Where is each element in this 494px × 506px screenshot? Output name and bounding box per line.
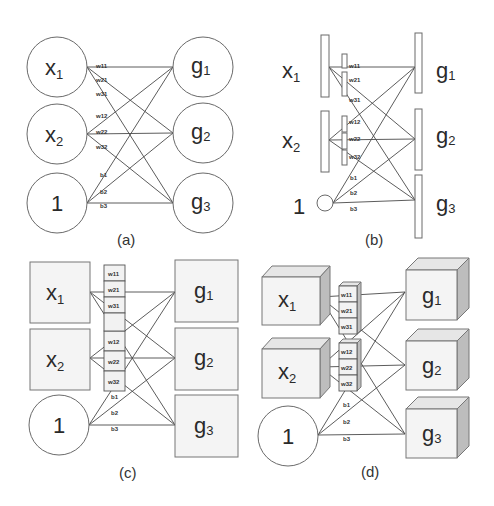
bias-label: b3 bbox=[100, 203, 108, 209]
input-cube-x1 bbox=[262, 266, 330, 325]
panel-a-edges bbox=[87, 67, 173, 203]
bias-label: b3 bbox=[343, 436, 351, 442]
weight-label: w31 bbox=[107, 303, 120, 309]
panel-caption-d: (d) bbox=[361, 463, 379, 480]
panel-d-weight-column: w11 w21 w31 w12 w22 w32 b1 b2 b3 bbox=[339, 282, 361, 442]
panel-caption-a: (a) bbox=[117, 231, 135, 248]
panel-c-edges bbox=[89, 292, 175, 425]
weight-label: w32 bbox=[348, 154, 361, 160]
bias-label-one: 1 bbox=[51, 191, 63, 216]
input-label-x2: x2 bbox=[282, 128, 300, 155]
output-bar-g3 bbox=[415, 175, 422, 238]
weight-label: w31 bbox=[340, 324, 353, 330]
weight-label: w21 bbox=[107, 287, 120, 293]
weight-label: w32 bbox=[340, 381, 353, 387]
panel-caption-c: (c) bbox=[119, 464, 137, 481]
panel-d: w11 w21 w31 w12 w22 w32 b1 b2 b3 x1 x2 1 bbox=[258, 258, 469, 480]
weight-label: w31 bbox=[95, 91, 108, 97]
bias-label: b2 bbox=[343, 419, 351, 425]
output-label-g2: g2 bbox=[436, 123, 455, 148]
output-label-g1: g1 bbox=[436, 58, 455, 83]
input-label-x1: x1 bbox=[282, 58, 300, 85]
weight-label: w21 bbox=[95, 77, 108, 83]
weight-bar bbox=[342, 133, 347, 149]
weight-label: w11 bbox=[348, 63, 361, 69]
bias-label: b3 bbox=[111, 426, 119, 432]
weight-bar bbox=[342, 54, 347, 68]
weight-label: w22 bbox=[107, 359, 120, 365]
output-bar-g1 bbox=[415, 33, 422, 93]
output-cube-g1 bbox=[406, 258, 469, 320]
bias-label: b2 bbox=[100, 189, 108, 195]
weight-label: w21 bbox=[340, 308, 353, 314]
panel-b: w11 w21 w31 w12 w22 w32 b1 b2 b3 x1 x2 1… bbox=[282, 33, 455, 248]
panel-c: w11 w21 w31 w12 w22 w32 b1 b2 b3 x1 x2 1… bbox=[29, 260, 238, 481]
weight-cell bbox=[104, 313, 125, 331]
weight-label: w31 bbox=[348, 97, 361, 103]
weight-label: w22 bbox=[340, 365, 353, 371]
bias-label-one: 1 bbox=[53, 413, 65, 438]
bias-label: b1 bbox=[343, 402, 351, 408]
output-bar-g2 bbox=[415, 109, 422, 170]
input-cube-x2 bbox=[262, 338, 330, 398]
weight-label: w12 bbox=[107, 339, 120, 345]
weight-label: w32 bbox=[107, 379, 120, 385]
panel-a: w11 w21 w31 w12 w22 w32 b1 b2 b3 x1 x2 1… bbox=[27, 37, 233, 248]
output-label-g3: g3 bbox=[436, 191, 455, 216]
bias-node bbox=[317, 195, 333, 211]
weight-bar bbox=[342, 72, 347, 96]
input-bar-x1 bbox=[321, 35, 329, 97]
weight-label: w22 bbox=[348, 136, 361, 142]
weight-label: w22 bbox=[95, 129, 108, 135]
output-cube-g2 bbox=[406, 329, 469, 390]
bias-label-one: 1 bbox=[293, 194, 305, 219]
weight-label: w32 bbox=[95, 144, 108, 150]
bias-label-one: 1 bbox=[282, 424, 294, 449]
weight-label: w21 bbox=[348, 77, 361, 83]
weight-bar bbox=[342, 116, 347, 132]
weight-label: w12 bbox=[348, 119, 361, 125]
bias-label: b1 bbox=[111, 394, 119, 400]
bias-label: b1 bbox=[350, 175, 358, 181]
bias-label: b2 bbox=[350, 190, 358, 196]
weight-label: w12 bbox=[340, 349, 353, 355]
bias-label: b1 bbox=[100, 172, 108, 178]
output-cube-g3 bbox=[406, 397, 469, 458]
panel-b-weight-labels: w11 w21 w31 w12 w22 w32 b1 b2 b3 bbox=[348, 63, 361, 212]
panel-caption-b: (b) bbox=[365, 231, 383, 248]
neural-network-figure: w11 w21 w31 w12 w22 w32 b1 b2 b3 x1 x2 1… bbox=[0, 0, 494, 506]
bias-label: b2 bbox=[111, 410, 119, 416]
weight-label: w11 bbox=[95, 63, 108, 69]
weight-label: w12 bbox=[95, 113, 108, 119]
panel-c-weight-column: w11 w21 w31 w12 w22 w32 b1 b2 b3 bbox=[104, 265, 125, 432]
weight-label: w11 bbox=[340, 292, 353, 298]
bias-label: b3 bbox=[350, 206, 358, 212]
weight-bar bbox=[342, 150, 347, 165]
weight-label: w11 bbox=[107, 271, 120, 277]
input-bar-x2 bbox=[321, 111, 329, 172]
